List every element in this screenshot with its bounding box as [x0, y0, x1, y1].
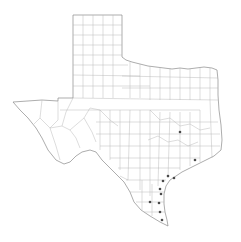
county-marker — [194, 159, 197, 162]
county-marker — [179, 131, 182, 134]
county-marker — [161, 219, 164, 222]
county-marker — [158, 202, 161, 205]
county-marker — [159, 211, 162, 214]
texas-county-map — [0, 0, 241, 242]
county-marker — [167, 175, 170, 178]
county-marker — [162, 180, 165, 183]
state-outline — [13, 15, 222, 226]
county-marker — [159, 188, 162, 191]
county-marker — [173, 177, 176, 180]
county-marker — [160, 193, 163, 196]
map-canvas — [0, 0, 241, 242]
county-marker — [149, 201, 152, 204]
